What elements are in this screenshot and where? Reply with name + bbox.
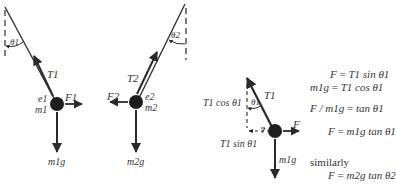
fbd-force-label: F — [293, 119, 300, 130]
equation-3-lhs: F / m1g — [310, 102, 344, 114]
fbd-angle-label: θ1 — [251, 97, 260, 108]
equation-1-rhs: T1 sin θ1 — [348, 68, 389, 80]
mass-label-1: m1 — [35, 104, 47, 115]
charged-ball-2 — [129, 95, 143, 109]
fbd-weight-label: m1g — [279, 154, 296, 165]
pendulum-1 — [5, 7, 82, 152]
force-label-2: F2 — [107, 91, 119, 102]
equation-4-lhs: F — [328, 125, 335, 137]
similarly-equation-rhs: m2g tan θ2 — [346, 169, 395, 181]
equation-4: F = m1g tan θ1 — [328, 125, 396, 137]
string-2 — [139, 4, 185, 98]
similarly-label: similarly — [310, 156, 349, 168]
fbd-horizontal-component-label: T1 sin θ1 — [220, 138, 257, 149]
tension-label-2: T2 — [127, 73, 139, 84]
equation-4-rhs: m1g tan θ1 — [346, 125, 395, 137]
equation-1: F = T1 sin θ1 — [330, 68, 389, 80]
charged-ball-1 — [50, 97, 64, 111]
angle-label-1: θ1 — [10, 37, 19, 48]
equation-1-lhs: F — [330, 68, 337, 80]
charge-label-1: e1 — [38, 93, 47, 104]
force-label-1: F1 — [65, 92, 77, 103]
weight-label-2: m2g — [127, 156, 144, 167]
fbd-tension-label: T1 — [264, 90, 276, 101]
tension-label-1: T1 — [47, 69, 59, 80]
similarly-equation: F = m2g tan θ2 — [328, 169, 396, 181]
charge-label-2: e2 — [145, 91, 154, 102]
tension-arrow-2 — [137, 52, 157, 94]
weight-label-1: m1g — [48, 156, 65, 167]
equation-2-rhs: T1 cos θ1 — [341, 81, 384, 93]
equation-3-rhs: tan θ1 — [356, 102, 384, 114]
mass-label-2: m2 — [145, 102, 157, 113]
pendulum-2 — [110, 4, 186, 152]
charged-ball — [268, 124, 282, 138]
angle-label-2: θ2 — [171, 30, 180, 41]
equation-2-lhs: m1g — [310, 81, 329, 93]
equation-2: m1g = T1 cos θ1 — [310, 81, 383, 93]
similarly-equation-lhs: F — [328, 169, 335, 181]
equation-3: F / m1g = tan θ1 — [310, 102, 384, 114]
fbd-vertical-component-label: T1 cos θ1 — [203, 97, 242, 108]
